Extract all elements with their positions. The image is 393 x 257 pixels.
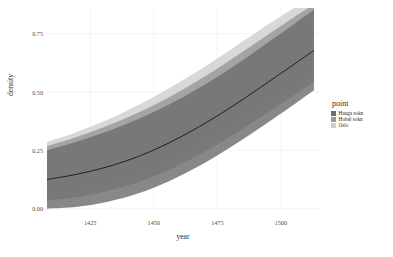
plot-area (47, 8, 319, 211)
legend: point Hauga sokn Hobøl sokn Oslo (331, 99, 389, 129)
x-tick-label: 1450 (139, 219, 169, 226)
legend-item-oslo[interactable]: Oslo (331, 123, 389, 128)
chart-container: 0.00 0.25 0.50 0.75 1425 1450 1475 1500 … (0, 0, 393, 257)
y-tick-label: 0.00 (13, 205, 43, 212)
y-tick-label: 0.50 (13, 89, 43, 96)
legend-swatch-icon (331, 117, 336, 122)
y-axis-title: density (6, 74, 15, 96)
legend-item-label: Oslo (339, 123, 349, 128)
legend-swatch-icon (331, 123, 336, 128)
plot-panel (47, 8, 319, 211)
legend-swatch-icon (331, 111, 336, 116)
y-tick-label: 0.75 (13, 30, 43, 37)
x-tick-label: 1475 (202, 219, 232, 226)
x-axis-title: year (47, 232, 319, 241)
legend-title: point (332, 99, 389, 108)
x-tick-label: 1500 (266, 219, 296, 226)
x-tick-label: 1425 (75, 219, 105, 226)
y-tick-label: 0.25 (13, 147, 43, 154)
